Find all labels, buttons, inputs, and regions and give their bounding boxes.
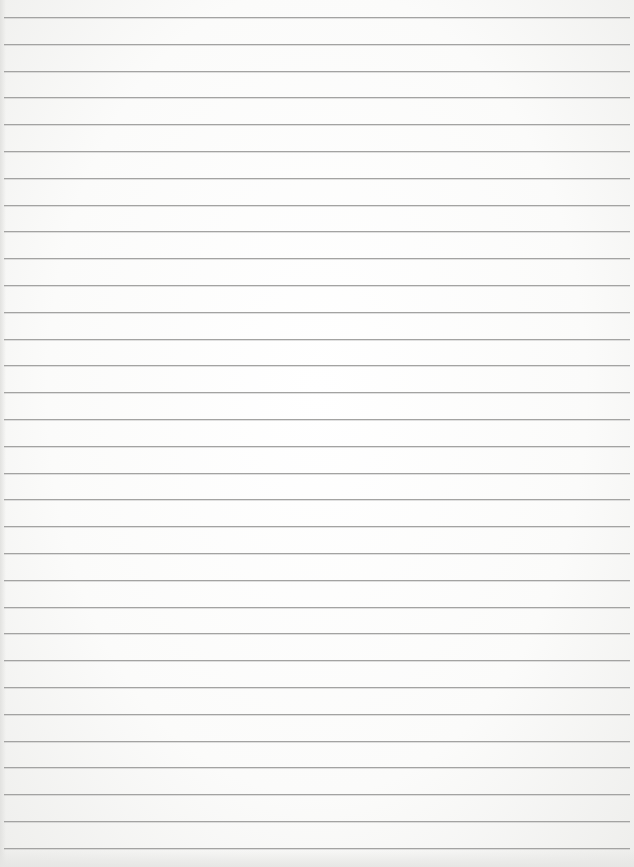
paper-left-shadow bbox=[0, 0, 6, 867]
ruled-line bbox=[4, 231, 630, 232]
ruled-line bbox=[4, 44, 630, 45]
ruled-line bbox=[4, 526, 630, 527]
ruled-line bbox=[4, 714, 630, 715]
ruled-line bbox=[4, 633, 630, 634]
ruled-line bbox=[4, 365, 630, 366]
ruled-line bbox=[4, 794, 630, 795]
paper-bottom-shadow bbox=[0, 849, 634, 867]
ruled-line bbox=[4, 553, 630, 554]
ruled-line bbox=[4, 419, 630, 420]
ruled-line bbox=[4, 312, 630, 313]
ruled-line bbox=[4, 392, 630, 393]
ruled-line bbox=[4, 446, 630, 447]
ruled-line bbox=[4, 17, 630, 18]
ruled-line bbox=[4, 767, 630, 768]
ruled-line bbox=[4, 660, 630, 661]
lined-paper-sheet bbox=[0, 0, 634, 867]
ruled-line bbox=[4, 205, 630, 206]
ruled-line bbox=[4, 124, 630, 125]
ruled-line bbox=[4, 339, 630, 340]
ruled-line bbox=[4, 151, 630, 152]
ruled-line bbox=[4, 607, 630, 608]
ruled-line bbox=[4, 741, 630, 742]
ruled-line bbox=[4, 97, 630, 98]
ruled-line bbox=[4, 258, 630, 259]
ruled-line bbox=[4, 71, 630, 72]
ruled-line bbox=[4, 473, 630, 474]
ruled-line bbox=[4, 821, 630, 822]
ruled-line bbox=[4, 580, 630, 581]
ruled-line bbox=[4, 178, 630, 179]
ruled-line bbox=[4, 499, 630, 500]
ruled-line bbox=[4, 285, 630, 286]
ruled-line bbox=[4, 687, 630, 688]
